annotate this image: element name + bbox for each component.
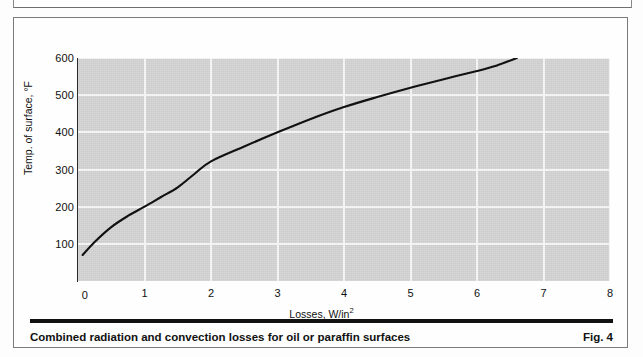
caption-text: Combined radiation and convection losses… bbox=[30, 331, 410, 343]
x-axis-label: Losses, W/in2 bbox=[0, 306, 643, 320]
x-axis-tick-label: 1 bbox=[132, 287, 158, 299]
caption-rule bbox=[30, 319, 613, 323]
data-curve bbox=[78, 58, 610, 281]
y-axis-tick-label: 600 bbox=[32, 52, 74, 64]
y-axis-tick-label: 300 bbox=[32, 164, 74, 176]
x-axis-ticks: 12345678 bbox=[0, 287, 643, 305]
x-axis-tick-label: 5 bbox=[398, 287, 424, 299]
x-axis-tick-label: 6 bbox=[464, 287, 490, 299]
y-axis-tick-label: 100 bbox=[32, 238, 74, 250]
x-axis-tick-label: 8 bbox=[597, 287, 623, 299]
x-axis-tick-label: 7 bbox=[531, 287, 557, 299]
y-axis-tick-label: 500 bbox=[32, 89, 74, 101]
x-axis-label-text: Losses, W/in bbox=[289, 308, 349, 320]
x-axis-tick-label: 2 bbox=[198, 287, 224, 299]
y-axis-tick-label: 400 bbox=[32, 126, 74, 138]
series-line bbox=[83, 58, 517, 255]
x-axis-tick-label: 3 bbox=[265, 287, 291, 299]
figure-page: 1002003004005006000 12345678 Temp. of su… bbox=[0, 0, 643, 357]
y-axis-tick-label: 200 bbox=[32, 201, 74, 213]
figure-number: Fig. 4 bbox=[583, 331, 613, 343]
x-axis-tick-label: 4 bbox=[331, 287, 357, 299]
chart: 1002003004005006000 12345678 Temp. of su… bbox=[0, 0, 643, 357]
y-axis-label: Temp. of surface, °F bbox=[22, 58, 34, 198]
x-axis-label-superscript: 2 bbox=[349, 306, 353, 315]
